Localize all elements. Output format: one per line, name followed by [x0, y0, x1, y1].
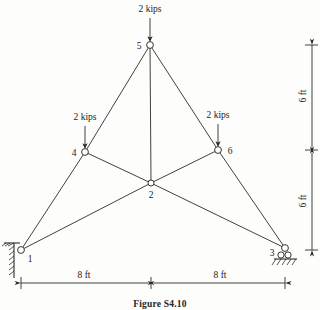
- roller-wheel-right: [285, 252, 291, 258]
- member-4-2: [85, 152, 151, 183]
- member-5-6: [150, 45, 218, 150]
- joint-label-6: 6: [228, 146, 233, 156]
- load-label-node-6: 2 kips: [207, 110, 230, 120]
- member-5-2: [150, 45, 151, 183]
- member-1-4: [21, 152, 85, 250]
- truss-diagram-canvas: 1 2 3 4 5 6 2 kips 2 kips 2 kips: [0, 0, 320, 310]
- vdim-label-upper: 6 ft: [298, 89, 308, 102]
- joint-label-4: 4: [72, 148, 77, 158]
- joint-5: [147, 42, 154, 49]
- joint-label-3: 3: [270, 248, 275, 258]
- horizontal-dimension-group: 8 ft 8 ft: [21, 270, 285, 289]
- dim-label-left-span: 8 ft: [78, 270, 91, 280]
- joint-label-1: 1: [28, 254, 33, 264]
- support-pin-node-1: [2, 243, 20, 278]
- roller-hatch-marks: [272, 259, 296, 265]
- member-1-2: [21, 183, 151, 250]
- member-2-3: [151, 183, 285, 248]
- roller-wheel-left: [278, 252, 284, 258]
- dim-label-right-span: 8 ft: [214, 270, 227, 280]
- truss-members: [21, 45, 285, 250]
- support-roller-node-3: [272, 252, 297, 265]
- joint-label-2: 2: [149, 190, 154, 200]
- joint-2: [148, 180, 154, 186]
- joint-label-5: 5: [137, 41, 142, 51]
- figure-caption: Figure S4.10: [0, 299, 320, 309]
- member-4-5: [85, 45, 150, 152]
- applied-loads: 2 kips 2 kips 2 kips: [74, 4, 230, 146]
- member-6-3: [218, 150, 285, 248]
- joint-1: [18, 247, 25, 254]
- joint-6: [215, 147, 222, 154]
- vdim-label-lower: 6 ft: [298, 194, 308, 207]
- truss-joints: [18, 42, 289, 254]
- truss-figure: 1 2 3 4 5 6 2 kips 2 kips 2 kips: [0, 0, 320, 310]
- load-label-node-4: 2 kips: [74, 112, 97, 122]
- load-label-node-5: 2 kips: [139, 4, 162, 14]
- pin-hatch-marks: [2, 243, 14, 275]
- vertical-dimension-group: 6 ft 6 ft: [298, 45, 318, 250]
- joint-3: [282, 245, 289, 252]
- member-2-6: [151, 150, 218, 183]
- joint-4: [82, 149, 89, 156]
